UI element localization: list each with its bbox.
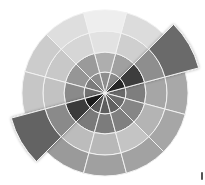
wheel-svg bbox=[0, 0, 205, 185]
ring-cell bbox=[84, 153, 127, 176]
edge-mark bbox=[201, 172, 203, 180]
ring-cell bbox=[165, 72, 188, 115]
center-dot bbox=[104, 92, 107, 95]
ring-cell bbox=[22, 72, 45, 115]
segmented-wheel-diagram bbox=[0, 0, 205, 185]
ring-cell bbox=[84, 10, 127, 33]
